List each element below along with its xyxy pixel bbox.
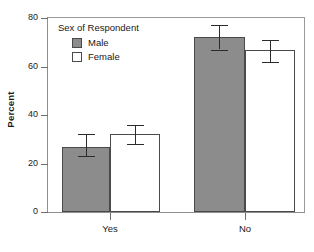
legend-label-male: Male bbox=[88, 37, 109, 48]
errorbar-cap-upper-male-yes bbox=[78, 134, 95, 135]
x-tick-no bbox=[245, 213, 246, 220]
legend-title: Sex of Respondent bbox=[58, 22, 139, 33]
y-tick-label-0: 0 bbox=[33, 207, 38, 216]
y-tick-label-80: 80 bbox=[28, 13, 38, 22]
legend-label-female: Female bbox=[88, 51, 120, 62]
errorbar-stem-female-yes bbox=[135, 125, 136, 144]
y-tick-20 bbox=[41, 164, 48, 165]
y-tick-60 bbox=[41, 67, 48, 68]
legend-item-male[interactable]: Male bbox=[72, 37, 139, 48]
x-axis-line bbox=[47, 212, 305, 213]
y-tick-label-20: 20 bbox=[28, 159, 38, 168]
y-tick-40 bbox=[41, 115, 48, 116]
legend: Sex of Respondent Male Female bbox=[58, 22, 139, 65]
errorbar-cap-lower-female-no bbox=[262, 62, 279, 63]
legend-item-female[interactable]: Female bbox=[72, 51, 139, 62]
x-tick-label-no: No bbox=[215, 224, 275, 234]
x-tick-label-yes: Yes bbox=[80, 224, 140, 234]
x-tick-yes bbox=[110, 213, 111, 220]
bar-female-no bbox=[245, 50, 295, 213]
errorbar-cap-upper-female-no bbox=[262, 40, 279, 41]
errorbar-stem-female-no bbox=[270, 40, 271, 62]
y-tick-label-40: 40 bbox=[28, 110, 38, 119]
errorbar-stem-male-yes bbox=[86, 134, 87, 156]
bar-male-no bbox=[194, 37, 245, 212]
errorbar-cap-upper-female-yes bbox=[127, 125, 144, 126]
errorbar-cap-lower-male-yes bbox=[78, 156, 95, 157]
bar-chart: 80 60 40 20 0 Percent Yes No Sex of Resp… bbox=[0, 0, 314, 252]
male-swatch-icon bbox=[72, 38, 82, 48]
errorbar-stem-male-no bbox=[219, 25, 220, 49]
errorbar-cap-upper-male-no bbox=[211, 25, 228, 26]
errorbar-cap-lower-female-yes bbox=[127, 144, 144, 145]
y-axis-title: Percent bbox=[5, 80, 16, 140]
y-tick-80 bbox=[41, 18, 48, 19]
y-tick-0 bbox=[41, 212, 48, 213]
female-swatch-icon bbox=[72, 52, 82, 62]
errorbar-cap-lower-male-no bbox=[211, 50, 228, 51]
y-tick-label-60: 60 bbox=[28, 62, 38, 71]
bar-female-yes bbox=[110, 134, 160, 212]
